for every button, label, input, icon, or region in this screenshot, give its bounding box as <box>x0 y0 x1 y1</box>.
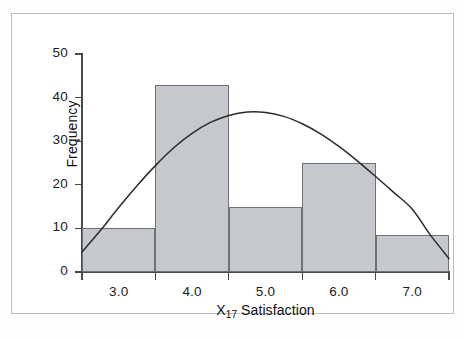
histogram-bar-4.0 <box>155 85 228 272</box>
histogram-bar-5.0 <box>229 207 302 272</box>
x-axis-title-variable: X <box>216 302 225 318</box>
x-axis-title: X17 Satisfaction <box>82 302 449 320</box>
histogram-bar-6.0 <box>302 163 375 272</box>
x-axis-title-subscript: 17 <box>226 309 237 320</box>
x-tick-edge-4.5 <box>228 273 229 280</box>
y-tick-30 <box>75 141 82 142</box>
figure-frame: Frequency 01020304050 3.04.05.06.07.0 X1… <box>11 13 454 314</box>
y-tick-label-0: 0 <box>22 263 68 278</box>
y-tick-40 <box>75 97 82 98</box>
x-tick-edge-2.5 <box>81 273 82 280</box>
histogram-bar-3.0 <box>82 228 155 272</box>
y-tick-10 <box>75 228 82 229</box>
x-tick-edge-7.5 <box>448 273 449 280</box>
x-tick-edge-6.5 <box>375 273 376 280</box>
y-tick-label-50: 50 <box>22 45 68 60</box>
y-tick-20 <box>75 184 82 185</box>
x-tick-edge-5.5 <box>302 273 303 280</box>
x-tick-label-4.0: 4.0 <box>162 284 222 299</box>
y-tick-label-10: 10 <box>22 219 68 234</box>
x-axis-title-text: Satisfaction <box>237 302 315 318</box>
scanned-page: Frequency 01020304050 3.04.05.06.07.0 X1… <box>0 0 464 339</box>
y-tick-50 <box>75 53 82 54</box>
y-tick-label-30: 30 <box>22 132 68 147</box>
x-tick-label-7.0: 7.0 <box>382 284 442 299</box>
y-tick-label-20: 20 <box>22 176 68 191</box>
y-tick-label-40: 40 <box>22 89 68 104</box>
histogram-bar-7.0 <box>376 235 449 272</box>
x-tick-label-6.0: 6.0 <box>309 284 369 299</box>
x-tick-edge-3.5 <box>155 273 156 280</box>
plot-area <box>82 54 449 272</box>
x-tick-label-3.0: 3.0 <box>89 284 149 299</box>
x-tick-label-5.0: 5.0 <box>236 284 296 299</box>
